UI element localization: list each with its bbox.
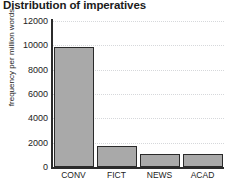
y-axis-tick-label: 2000	[4, 138, 48, 148]
bar-fict	[97, 146, 137, 167]
y-axis-tick-label: 0	[4, 162, 48, 172]
y-axis-tick-label: 8000	[4, 65, 48, 75]
bar-conv	[54, 47, 94, 167]
y-axis-tick-label: 6000	[4, 89, 48, 99]
x-axis-tick-label: CONV	[61, 170, 86, 180]
x-axis-tick-label: NEWS	[147, 170, 173, 180]
y-axis-tick-label: 12000	[4, 16, 48, 26]
chart-figure: Distribution of imperatives frequency pe…	[0, 0, 225, 187]
y-axis-tick-label: 4000	[4, 113, 48, 123]
plot-area	[52, 21, 224, 167]
bar-news	[140, 154, 180, 167]
y-axis-tick-label: 10000	[4, 40, 48, 50]
bar-series	[52, 21, 224, 167]
x-axis-line	[51, 167, 224, 169]
x-axis-tick-labels: CONVFICTNEWSACAD	[52, 170, 224, 186]
y-axis-tick-labels: frequency per million words 020004000600…	[0, 0, 48, 187]
x-axis-tick-label: ACAD	[191, 170, 215, 180]
bar-acad	[183, 154, 223, 167]
x-axis-tick-label: FICT	[107, 170, 126, 180]
y-axis-line	[51, 19, 53, 168]
